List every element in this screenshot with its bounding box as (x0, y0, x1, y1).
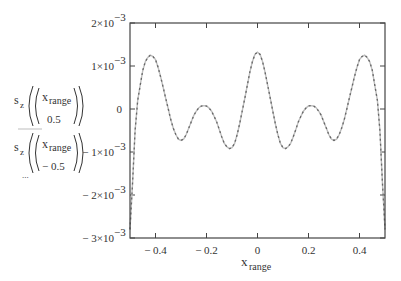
paren-left-outer (29, 86, 33, 126)
y-tick-label: − 3×10 (82, 232, 114, 244)
y-axis-ticks: 2×10−31×10−30− 1×10−3− 2×10−3− 3×10−3 (82, 11, 385, 244)
legend-fn-sub: z (20, 147, 24, 157)
legend-arg-bottom: 0.5 (47, 113, 61, 125)
legend-arg-top-sub: range (49, 95, 72, 106)
paren-right-inner (74, 88, 78, 124)
x-tick-label: − 0.4 (144, 244, 167, 256)
series-group (130, 52, 385, 229)
legend: s z x range 0.5 s z x range − 0.5 ... (14, 86, 83, 180)
x-tick-label: 0 (255, 244, 261, 256)
y-tick-label-exponent: −3 (114, 11, 126, 23)
paren-left-inner (36, 135, 40, 171)
y-tick-label: 2×10 (91, 17, 114, 29)
legend-arg-bottom: − 0.5 (42, 160, 65, 172)
legend-entry-1: s z x range 0.5 (14, 86, 83, 129)
legend-fn-sub: z (20, 100, 24, 110)
y-tick-label-exponent: −3 (114, 54, 126, 66)
y-tick-label-exponent: −3 (114, 140, 126, 152)
y-tick-label: − 2×10 (82, 189, 114, 201)
y-tick-label-exponent: −3 (114, 183, 126, 195)
legend-fn: s (14, 140, 19, 154)
legend-arg-top-sub: range (49, 142, 72, 153)
x-tick-label: 0.4 (353, 244, 367, 256)
legend-entry-2: s z x range − 0.5 ... (14, 133, 83, 180)
series-line-1 (130, 52, 385, 229)
legend-fn: s (14, 93, 19, 107)
paren-left-outer (29, 133, 33, 173)
y-tick-label: 0 (117, 103, 123, 115)
legend-arg-top: x (42, 137, 48, 151)
plot-frame (130, 23, 385, 238)
y-tick-label: − 1×10 (82, 146, 114, 158)
paren-right-inner (74, 135, 78, 171)
x-tick-label: 0.2 (302, 244, 316, 256)
x-axis-label: x range (241, 254, 272, 272)
paren-right-outer (79, 86, 83, 126)
y-tick-label-exponent: −3 (114, 226, 126, 238)
paren-left-inner (36, 88, 40, 124)
x-axis-label-sub: range (249, 261, 272, 272)
x-tick-label: − 0.2 (195, 244, 218, 256)
y-tick-label: 1×10 (91, 60, 114, 72)
legend-ellipsis: ... (22, 170, 29, 180)
x-axis-label-main: x (241, 254, 248, 269)
line-chart: s z x range 0.5 s z x range − 0.5 ... 2×… (0, 0, 401, 281)
legend-arg-top: x (42, 90, 48, 104)
series-line-2 (130, 52, 385, 229)
